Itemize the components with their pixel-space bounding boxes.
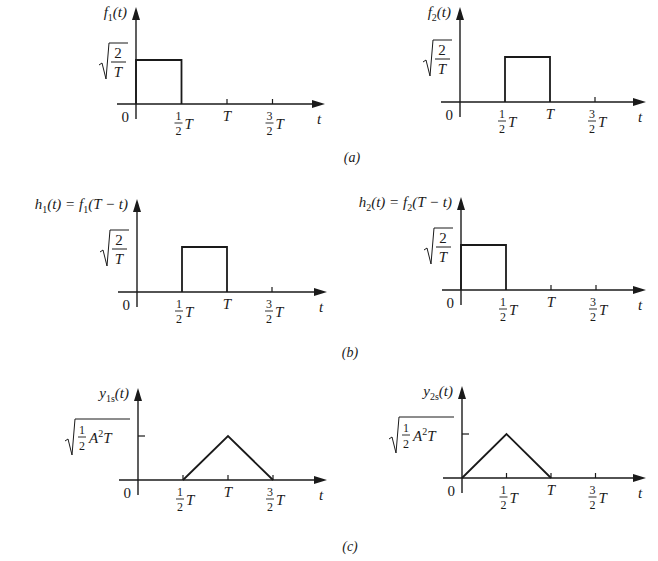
fraction-denominator: 2 xyxy=(590,498,596,512)
y-level-label: 2T xyxy=(424,228,453,265)
y-level-label: 2T xyxy=(99,43,128,80)
x-axis-label: t xyxy=(638,109,643,125)
symbol-T: T xyxy=(276,116,286,132)
y-axis-title: f2(t) xyxy=(428,4,451,23)
fraction-denominator: 2 xyxy=(500,310,506,324)
x-tick-label-three-half-T: 32T xyxy=(265,297,285,326)
x-tick-label-three-half-T: 32T xyxy=(589,295,609,324)
y-axis-title: f1(t) xyxy=(104,4,127,23)
fraction-numerator: 1 xyxy=(501,483,507,497)
x-tick-label-half-T: 12T xyxy=(175,109,195,138)
x-axis-label: t xyxy=(638,485,643,501)
signal-h1 xyxy=(182,247,227,292)
fraction-numerator: 3 xyxy=(267,109,273,123)
symbol-T: T xyxy=(185,116,195,132)
fraction-numerator: 2 xyxy=(438,42,446,58)
panel-f1: 012TT32Tt2Tf1(t) xyxy=(99,4,325,138)
x-axis-label: t xyxy=(319,299,324,315)
x-tick-label-T: T xyxy=(546,106,556,122)
fraction-denominator: 2 xyxy=(79,439,85,453)
fraction-denominator: 2 xyxy=(590,310,596,324)
x-tick-label-three-half-T: 32T xyxy=(266,485,286,514)
fraction-numerator: 3 xyxy=(590,295,596,309)
x-tick-label-half-T: 12T xyxy=(176,485,196,514)
x-tick-label-0: 0 xyxy=(123,297,131,313)
x-tick-label-0: 0 xyxy=(446,107,454,123)
fraction-numerator: 1 xyxy=(500,295,506,309)
y-axis-title: y1s(t) xyxy=(97,385,129,404)
symbol-T: T xyxy=(275,304,285,320)
fraction-denominator: 2 xyxy=(177,500,183,514)
x-axis-label: t xyxy=(317,111,322,127)
x-axis-label: t xyxy=(319,487,324,503)
fraction-numerator: 1 xyxy=(79,423,85,437)
x-tick-label-T: T xyxy=(223,296,233,312)
x-axis-label: t xyxy=(638,297,643,313)
x-tick-label-half-T: 12T xyxy=(175,297,195,326)
y-axis-title: h2(t) = f2(T − t) xyxy=(359,194,452,213)
x-tick-label-half-T: 12T xyxy=(499,295,519,324)
signal-y2s xyxy=(462,434,551,478)
captions-group: (a) (b) (c) xyxy=(342,150,361,555)
x-tick-label-T: T xyxy=(223,108,233,124)
x-tick-label-half-T: 12T xyxy=(500,483,520,512)
fraction-numerator: 3 xyxy=(589,107,595,121)
x-tick-label-half-T: 12T xyxy=(498,107,518,136)
caption-a: (a) xyxy=(344,150,361,166)
fraction-numerator: 1 xyxy=(176,297,182,311)
fraction-denominator: T xyxy=(438,61,448,77)
y-level-label: 2T xyxy=(423,40,452,77)
y-axis-arrow-icon xyxy=(457,197,465,210)
fraction-numerator: 1 xyxy=(176,109,182,123)
x-tick-label-0: 0 xyxy=(122,109,130,125)
fraction-numerator: 3 xyxy=(266,297,272,311)
fraction-denominator: 2 xyxy=(501,498,507,512)
fraction-denominator: 2 xyxy=(499,122,505,136)
fraction-denominator: 2 xyxy=(589,122,595,136)
panels-group: 012TT32Tt2Tf1(t)012TT32Tt2Tf2(t)012TT32T… xyxy=(35,4,646,514)
fraction-denominator: T xyxy=(114,64,124,80)
fraction-denominator: T xyxy=(115,251,125,267)
caption-b: (b) xyxy=(342,345,359,361)
x-tick-label-three-half-T: 32T xyxy=(588,107,608,136)
y-axis-arrow-icon xyxy=(456,7,464,20)
panel-y1s: 012TT32Tt12A2Ty1s(t) xyxy=(65,385,327,514)
symbol-T: T xyxy=(186,492,196,508)
symbol-T: T xyxy=(598,114,608,130)
panel-h1: 012TT32Tt2Th1(t) = f1(T − t) xyxy=(35,196,327,326)
x-axis-arrow-icon xyxy=(312,100,325,108)
x-axis-arrow-icon xyxy=(314,288,327,296)
symbol-T: T xyxy=(508,114,518,130)
fraction-numerator: 1 xyxy=(403,421,409,435)
fraction-denominator: 2 xyxy=(267,500,273,514)
x-tick-label-three-half-T: 32T xyxy=(589,483,609,512)
panel-y2s: 012TT32Tt12A2Ty2s(t) xyxy=(389,383,646,512)
signal-h2 xyxy=(461,245,506,290)
symbol-T: T xyxy=(185,304,195,320)
symbol-T: T xyxy=(276,492,286,508)
x-axis-arrow-icon xyxy=(314,476,327,484)
fraction-denominator: 2 xyxy=(267,124,273,138)
x-tick-label-T: T xyxy=(224,484,234,500)
x-axis-arrow-icon xyxy=(633,474,646,482)
x-tick-label-0: 0 xyxy=(447,295,455,311)
x-tick-label-T: T xyxy=(547,482,557,498)
fraction-numerator: 2 xyxy=(114,45,122,61)
x-axis-arrow-icon xyxy=(633,286,646,294)
signal-f1 xyxy=(136,60,182,104)
symbol-T: T xyxy=(510,490,520,506)
a-squared-t: A2T xyxy=(88,428,113,446)
y-axis-arrow-icon xyxy=(133,199,141,212)
signal-figure: 012TT32Tt2Tf1(t)012TT32Tt2Tf2(t)012TT32T… xyxy=(0,0,658,561)
panel-f2: 012TT32Tt2Tf2(t) xyxy=(423,4,646,136)
y-axis-arrow-icon xyxy=(134,388,142,401)
y-axis-title: y2s(t) xyxy=(421,383,453,402)
x-tick-label-0: 0 xyxy=(124,485,132,501)
y-level-label: 12A2T xyxy=(389,417,454,453)
fraction-numerator: 1 xyxy=(177,485,183,499)
fraction-denominator: T xyxy=(439,249,449,265)
symbol-T: T xyxy=(599,302,609,318)
x-tick-label-0: 0 xyxy=(448,483,456,499)
panel-h2: 012TT32Tt2Th2(t) = f2(T − t) xyxy=(359,194,646,324)
y-axis-arrow-icon xyxy=(458,386,466,399)
